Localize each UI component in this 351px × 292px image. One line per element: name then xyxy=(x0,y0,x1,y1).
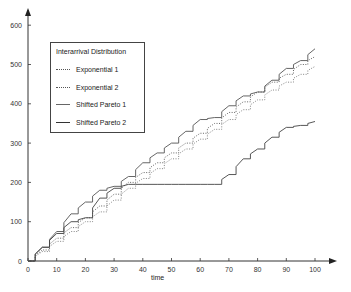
legend: Interarrival Distribution Exponential 1 … xyxy=(50,42,145,133)
legend-item-exponential-2: Exponential 2 xyxy=(56,82,118,92)
y-tick-label: 300 xyxy=(10,140,22,147)
legend-label: Shifted Pareto 2 xyxy=(76,119,126,126)
y-tick-label: 0 xyxy=(18,258,22,265)
y-tick-label: 500 xyxy=(10,61,22,68)
x-tick-label: 30 xyxy=(110,266,118,273)
solid-line-swatch-icon xyxy=(56,104,70,105)
y-tick-label: 100 xyxy=(10,218,22,225)
x-tick-label: 20 xyxy=(82,266,90,273)
legend-title: Interarrival Distribution xyxy=(56,48,126,55)
x-tick-label: 90 xyxy=(282,266,290,273)
x-axis-label: time xyxy=(151,274,164,281)
legend-item-exponential-1: Exponential 1 xyxy=(56,64,118,74)
x-tick-label: 10 xyxy=(53,266,61,273)
series-line-shifted-pareto-2 xyxy=(28,121,315,261)
x-axis-arrow-icon xyxy=(329,258,337,264)
x-tick-label: 70 xyxy=(225,266,233,273)
legend-label: Exponential 1 xyxy=(76,66,118,73)
legend-item-shifted-pareto-1: Shifted Pareto 1 xyxy=(56,99,126,109)
y-tick-label: 600 xyxy=(10,22,22,29)
legend-label: Shifted Pareto 1 xyxy=(76,101,126,108)
y-axis-arrow-icon xyxy=(25,8,31,16)
legend-label: Exponential 2 xyxy=(76,84,118,91)
x-tick-label: 40 xyxy=(139,266,147,273)
legend-item-shifted-pareto-2: Shifted Pareto 2 xyxy=(56,117,126,127)
dotted-line-swatch-icon xyxy=(56,87,70,88)
y-tick-label: 400 xyxy=(10,100,22,107)
dotted-line-swatch-icon xyxy=(56,69,70,70)
x-tick-label: 100 xyxy=(309,266,321,273)
x-tick-label: 0 xyxy=(26,266,30,273)
x-tick-label: 80 xyxy=(254,266,262,273)
x-tick-label: 50 xyxy=(168,266,176,273)
solid-line-swatch-icon xyxy=(56,122,70,123)
y-tick-label: 200 xyxy=(10,179,22,186)
x-tick-label: 60 xyxy=(196,266,204,273)
